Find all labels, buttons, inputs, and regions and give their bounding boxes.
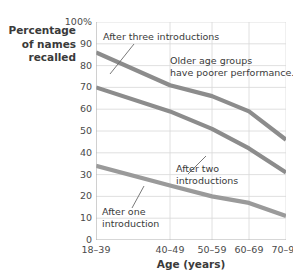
x-axis-title: Age (years) [96,258,286,270]
y-axis-tick-50: 50 [80,126,92,136]
x-axis-tick-3: 50–59 [198,244,227,255]
y-axis-tick-30: 30 [80,170,92,180]
y-axis-tick-90: 90 [80,39,92,49]
y-axis-tick-40: 40 [80,148,92,158]
annotation-after-one-line-2: introduction [102,218,159,230]
chart-figure: Percentage of names recalled 100%9080706… [0,0,293,274]
y-axis-tick-60: 60 [80,104,92,114]
annotation-older-groups-line-2: have poorer performance. [170,67,293,79]
y-axis-tick-70: 70 [80,82,92,92]
annotation-after-one: After one introduction [102,206,159,229]
y-axis-tick-labels: 100%9080706050403020100 [58,0,94,274]
y-axis-tick-100: 100% [65,17,92,27]
annotation-after-two: After two introductions [176,163,238,186]
annotation-older-groups: Older age groups have poorer performance… [170,55,293,78]
annotation-after-one-line-1: After one [102,206,159,218]
annotation-after-three-text: After three introductions [103,31,219,43]
annotation-after-two-line-2: introductions [176,175,238,187]
annotation-after-three: After three introductions [103,31,219,43]
x-axis-tick-1: 18–39 [82,244,111,255]
series-line-2 [96,87,286,172]
y-axis-tick-20: 20 [80,191,92,201]
x-axis-tick-2: 40–49 [156,244,185,255]
annotation-older-groups-line-1: Older age groups [170,55,293,67]
y-axis-tick-80: 80 [80,61,92,71]
y-axis-tick-10: 10 [80,213,92,223]
x-axis-tick-labels: 18–3940–4950–5960–6970–90 [0,244,293,258]
annotation-after-two-line-1: After two [176,163,238,175]
x-axis-tick-4: 60–69 [235,244,264,255]
x-axis-tick-5: 70–90 [272,244,293,255]
